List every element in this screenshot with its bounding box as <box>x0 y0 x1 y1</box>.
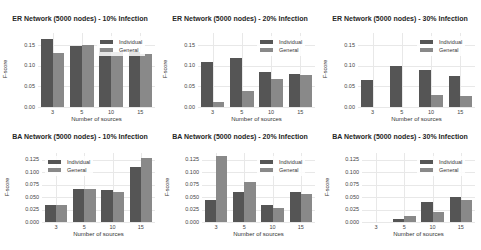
chart-panel: BA Network (5000 nodes) - 20% Infection0… <box>160 125 320 250</box>
y-tick-label: 0.125 <box>173 156 199 162</box>
legend-swatch-general <box>420 168 433 172</box>
grid-line <box>362 222 475 223</box>
grid-line <box>358 66 475 67</box>
x-tick-label: 5 <box>72 109 92 115</box>
x-tick-label: 3 <box>366 224 386 230</box>
bar-individual <box>99 48 111 107</box>
chart-title: ER Network (5000 nodes) - 30% Infection <box>320 15 480 22</box>
grid-line <box>373 33 374 107</box>
y-tick-label: 0.025 <box>173 206 199 212</box>
bar-individual <box>230 58 242 107</box>
x-tick-label: 10 <box>261 109 281 115</box>
bar-individual <box>289 74 301 107</box>
chart-title: ER Network (5000 nodes) - 10% Infection <box>0 15 160 22</box>
bar-individual <box>361 80 373 107</box>
legend-item: General <box>260 166 302 174</box>
legend-item: Individual <box>420 38 462 46</box>
legend-item: Individual <box>420 158 462 166</box>
chart-panel: ER Network (5000 nodes) - 20% Infection0… <box>160 0 320 125</box>
bar-general <box>84 189 95 223</box>
legend-item: General <box>100 46 142 54</box>
legend-swatch-individual <box>420 160 433 164</box>
grid-line <box>358 107 475 108</box>
bar-individual <box>393 219 404 222</box>
x-axis-label: Number of sources <box>197 116 317 122</box>
legend-item: General <box>48 166 90 174</box>
legend-swatch-individual <box>48 160 61 164</box>
legend-swatch-individual <box>100 40 113 44</box>
chart-panel: ER Network (5000 nodes) - 10% Infection0… <box>0 0 160 125</box>
legend-swatch-general <box>260 48 273 52</box>
bar-general <box>244 182 255 222</box>
bar-general <box>242 91 254 107</box>
y-tick-label: 0.05 <box>329 83 355 89</box>
legend-swatch-individual <box>260 160 273 164</box>
y-tick-label: 0.125 <box>13 156 39 162</box>
legend-item: Individual <box>260 158 302 166</box>
chart-panel: BA Network (5000 nodes) - 30% Infection0… <box>320 125 480 250</box>
x-tick-label: 15 <box>450 109 470 115</box>
legend-label: Individual <box>439 39 462 45</box>
y-axis-label: F-score <box>4 177 10 196</box>
y-tick-label: 0.10 <box>329 62 355 68</box>
chart-legend: IndividualGeneral <box>45 156 93 176</box>
y-axis-label: F-score <box>324 177 330 196</box>
bar-general <box>82 45 94 107</box>
chart-panel: ER Network (5000 nodes) - 30% Infection0… <box>320 0 480 125</box>
x-tick-label: 3 <box>206 224 226 230</box>
x-axis-label: Number of sources <box>39 231 159 237</box>
bar-individual <box>259 72 271 107</box>
y-tick-label: 0.00 <box>9 104 35 110</box>
y-tick-label: 0.000 <box>333 219 359 225</box>
bar-general <box>271 79 283 107</box>
legend-swatch-individual <box>260 40 273 44</box>
legend-label: General <box>439 167 459 173</box>
bar-general <box>273 208 284 222</box>
bar-general <box>140 54 152 107</box>
y-tick-label: 0.000 <box>173 219 199 225</box>
chart-title: ER Network (5000 nodes) - 20% Infection <box>160 15 320 22</box>
legend-label: Individual <box>279 159 302 165</box>
chart-legend: IndividualGeneral <box>257 36 305 56</box>
legend-label: Individual <box>119 39 142 45</box>
bar-individual <box>73 189 84 223</box>
x-tick-label: 5 <box>232 109 252 115</box>
bar-general <box>216 156 227 223</box>
legend-swatch-general <box>48 168 61 172</box>
legend-item: Individual <box>260 38 302 46</box>
bar-individual <box>130 167 141 223</box>
y-tick-label: 0.05 <box>9 83 35 89</box>
bar-individual <box>70 46 82 107</box>
bar-individual <box>101 190 112 223</box>
legend-swatch-general <box>100 48 113 52</box>
chart-panel: BA Network (5000 nodes) - 10% Infection0… <box>0 125 160 250</box>
y-tick-label: 0.075 <box>173 181 199 187</box>
y-tick-label: 0.125 <box>333 156 359 162</box>
grid-line <box>404 153 405 222</box>
chart-legend: IndividualGeneral <box>417 36 465 56</box>
x-tick-label: 3 <box>363 109 383 115</box>
bar-general <box>431 95 443 107</box>
legend-label: General <box>279 47 299 53</box>
bar-individual <box>261 205 272 222</box>
bar-individual <box>41 39 53 107</box>
y-tick-label: 0.025 <box>333 206 359 212</box>
bar-general <box>113 192 124 223</box>
y-tick-label: 0.15 <box>329 42 355 48</box>
bar-individual <box>390 66 402 107</box>
x-tick-label: 15 <box>451 224 471 230</box>
legend-item: General <box>420 166 462 174</box>
bar-general <box>141 158 152 223</box>
legend-label: Individual <box>279 39 302 45</box>
chart-legend: IndividualGeneral <box>97 36 145 56</box>
x-tick-label: 5 <box>74 224 94 230</box>
x-axis-label: Number of sources <box>359 231 479 237</box>
y-tick-label: 0.00 <box>329 104 355 110</box>
y-tick-label: 0.075 <box>333 181 359 187</box>
y-tick-label: 0.100 <box>13 169 39 175</box>
bar-general <box>53 53 65 107</box>
x-tick-label: 5 <box>234 224 254 230</box>
legend-item: Individual <box>48 158 90 166</box>
legend-swatch-general <box>260 168 273 172</box>
x-tick-label: 3 <box>203 109 223 115</box>
